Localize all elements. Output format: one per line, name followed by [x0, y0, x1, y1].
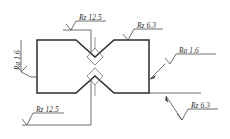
technical-drawing-canvas: Rz 12.5 Rz 6.3 Ra 1.6 Ra 1.6 Rz 12.5 Rz …: [0, 0, 230, 139]
bottom-left-check-mark-icon: [22, 113, 33, 125]
right-check-mark-icon: [165, 54, 176, 64]
bottom-left-extension-line: [22, 80, 91, 125]
label-left-side: Ra 1.6: [13, 50, 22, 71]
bottom-right-leader-line: [166, 96, 182, 120]
part-outline-group: [37, 40, 149, 93]
top-right-check-mark-icon: [123, 29, 134, 40]
left-check-mark-icon: [21, 66, 31, 77]
right-leader-line: [150, 64, 165, 79]
label-bottom-right: Rz 6.3: [190, 101, 210, 110]
label-top-left: Rz 12.5: [78, 13, 102, 22]
symbol-top-right-group[interactable]: [123, 29, 163, 40]
symbol-left-group[interactable]: [21, 40, 37, 77]
label-bottom-left: Rz 12.5: [35, 105, 59, 114]
label-top-right: Rz 6.3: [136, 21, 156, 30]
symbol-right-group[interactable]: [150, 54, 217, 80]
symbol-bottom-left-group[interactable]: [22, 80, 91, 125]
part-outline-path: [37, 40, 149, 93]
right-leader-arrow-icon: [150, 75, 157, 80]
top-left-check-mark-icon: [66, 21, 76, 30]
label-right-side: Ra 1.6: [178, 46, 199, 55]
surface-roughness-drawing: Rz 12.5 Rz 6.3 Ra 1.6 Ra 1.6 Rz 12.5 Rz …: [0, 0, 230, 139]
